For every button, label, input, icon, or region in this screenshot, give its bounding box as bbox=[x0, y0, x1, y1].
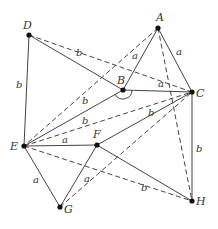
point-layer bbox=[21, 25, 194, 209]
edge-label-EH: b bbox=[141, 182, 147, 193]
edge-layer bbox=[24, 28, 192, 207]
edge-label-AC: a bbox=[176, 46, 182, 57]
point-label-B: B bbox=[116, 74, 125, 87]
edge-DC bbox=[29, 35, 192, 92]
point-F bbox=[94, 142, 99, 147]
point-C bbox=[189, 89, 194, 94]
point-label-G: G bbox=[64, 203, 73, 216]
edge-label-EC: b bbox=[148, 107, 154, 118]
edge-EH bbox=[24, 146, 192, 201]
edge-label-DE: b bbox=[16, 79, 22, 90]
point-label-F: F bbox=[92, 128, 101, 141]
edge-label-FG: a bbox=[84, 173, 90, 184]
edge-label-BE: b bbox=[82, 115, 88, 126]
edge-DE bbox=[24, 35, 29, 146]
edge-AH bbox=[158, 28, 192, 201]
edge-BC bbox=[123, 90, 192, 92]
point-label-A: A bbox=[155, 11, 164, 24]
edge-AB bbox=[123, 28, 158, 90]
point-label-E: E bbox=[9, 140, 18, 153]
edge-label-AE: b bbox=[82, 95, 88, 106]
point-A bbox=[155, 25, 160, 30]
edge-EC bbox=[24, 92, 192, 146]
point-H bbox=[189, 198, 194, 203]
geometry-diagram: bbaababbaababABCDEFGH bbox=[0, 0, 218, 229]
point-label-C: C bbox=[196, 87, 205, 100]
edge-EG bbox=[24, 146, 60, 207]
edge-AE bbox=[24, 28, 158, 146]
point-E bbox=[21, 143, 26, 148]
edge-BE bbox=[24, 90, 123, 146]
edge-EF bbox=[24, 145, 97, 146]
point-G bbox=[57, 204, 62, 209]
edge-FC bbox=[97, 92, 192, 145]
edge-label-CH: b bbox=[196, 143, 202, 154]
point-label-D: D bbox=[22, 19, 32, 32]
label-layer: bbaababbaababABCDEFGH bbox=[9, 11, 206, 216]
edge-label-BC: a bbox=[158, 78, 164, 89]
edge-label-EG: a bbox=[33, 174, 39, 185]
edge-label-AB: a bbox=[132, 50, 138, 61]
edge-FG bbox=[60, 145, 97, 207]
edge-label-EF: a bbox=[62, 134, 68, 145]
point-D bbox=[26, 32, 31, 37]
edge-label-DC: b bbox=[76, 47, 82, 58]
point-B bbox=[120, 87, 125, 92]
point-label-H: H bbox=[195, 195, 206, 208]
